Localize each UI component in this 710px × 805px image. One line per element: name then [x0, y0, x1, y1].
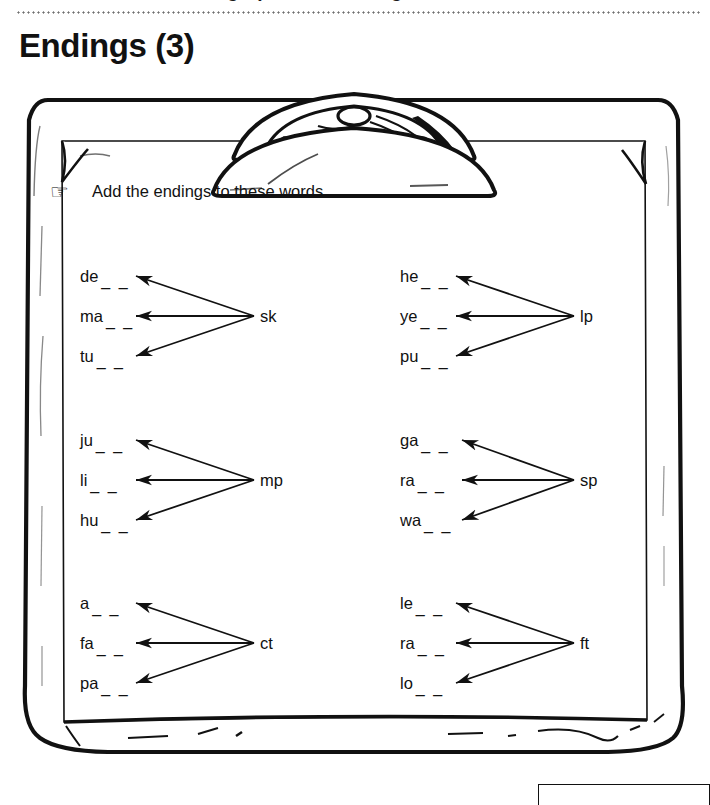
word-item: fa_ _ [80, 634, 125, 653]
word-item: ra_ _ [400, 634, 446, 653]
exercise-group-2: he_ _ ye_ _ pu_ _ lp [400, 258, 650, 378]
exercise-group-6: le_ _ ra_ _ lo_ _ ft [400, 585, 650, 705]
exercise-group-5: a_ _ fa_ _ pa_ _ ct [80, 585, 330, 705]
ending-label: ft [580, 634, 589, 652]
word-item: he_ _ [400, 267, 450, 286]
arrow-to-word-3 [136, 480, 254, 520]
word-item: le_ _ [400, 594, 444, 613]
word-item: a_ _ [80, 594, 120, 613]
ending-label: ct [260, 634, 273, 652]
word-item: ra_ _ [400, 471, 446, 490]
arrow-to-word-1 [456, 603, 574, 643]
arrow-to-word-1 [136, 276, 254, 316]
exercise-group-4: ga_ _ ra_ _ wa_ _ sp [400, 422, 650, 542]
word-item: tu_ _ [80, 347, 125, 366]
exercise-group-1: de_ _ ma_ _ tu_ _ sk [80, 258, 330, 378]
word-item: pu_ _ [400, 347, 450, 366]
ending-label: lp [580, 307, 593, 325]
arrow-to-word-3 [462, 480, 574, 520]
exercise-group-3: ju_ _ li_ _ hu_ _ mp [80, 422, 330, 542]
arrow-to-word-3 [136, 316, 254, 356]
arrow-to-word-3 [456, 643, 574, 683]
word-item: pa_ _ [80, 674, 130, 693]
ending-label: sp [580, 471, 597, 489]
arrow-to-word-3 [136, 643, 254, 683]
arrow-to-word-3 [456, 316, 574, 356]
word-item: ga_ _ [400, 431, 450, 450]
arrow-to-word-1 [136, 440, 254, 480]
bottom-right-cropped-box [538, 784, 710, 805]
word-item: de_ _ [80, 267, 130, 286]
word-item: ye_ _ [400, 307, 449, 326]
word-item: ju_ _ [80, 431, 124, 450]
arrow-to-word-1 [136, 603, 254, 643]
word-item: hu_ _ [80, 511, 130, 530]
word-item: ma_ _ [80, 307, 134, 326]
arrow-to-word-1 [462, 440, 574, 480]
ending-label: sk [260, 307, 277, 325]
word-item: wa_ _ [400, 511, 452, 530]
arrow-to-word-1 [456, 276, 574, 316]
word-item: lo_ _ [400, 674, 444, 693]
ending-label: mp [260, 471, 283, 489]
word-item: li_ _ [80, 471, 119, 490]
